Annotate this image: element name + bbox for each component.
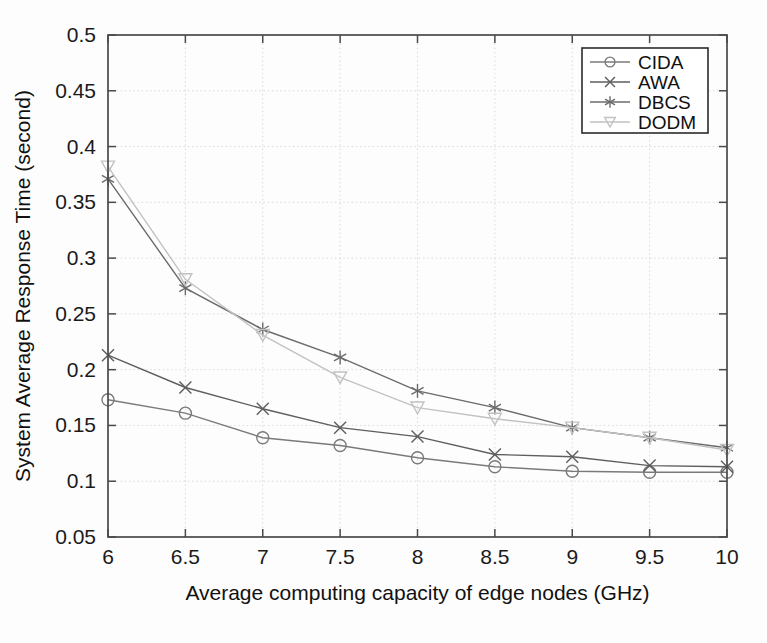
x-tick-label: 6.5 (171, 545, 200, 568)
y-tick-label: 0.35 (55, 190, 96, 213)
chart-legend[interactable]: CIDAAWADBCSDODM (582, 48, 708, 133)
y-tick-label: 0.15 (55, 413, 96, 436)
y-axis-title: System Average Response Time (second) (11, 90, 34, 482)
y-tick-label: 0.05 (55, 525, 96, 548)
y-tick-label: 0.45 (55, 79, 96, 102)
x-tick-label: 7.5 (326, 545, 355, 568)
y-tick-label: 0.2 (67, 358, 96, 381)
x-tick-label: 9 (566, 545, 578, 568)
x-tick-label: 10 (715, 545, 738, 568)
x-tick-label: 9.5 (635, 545, 664, 568)
data-point-marker-asterisk (334, 350, 346, 364)
y-tick-label: 0.1 (67, 469, 96, 492)
data-point-marker-x (179, 382, 191, 394)
data-point-marker-x (257, 403, 269, 415)
x-tick-label: 8 (412, 545, 424, 568)
y-tick-label: 0.5 (67, 23, 96, 46)
data-point-marker-asterisk (489, 401, 501, 415)
x-tick-label: 8.5 (480, 545, 509, 568)
legend-label: DBCS (638, 92, 691, 113)
y-tick-label: 0.4 (67, 135, 97, 158)
line-chart: 66.577.588.599.5100.050.10.150.20.250.30… (0, 0, 767, 643)
data-point-marker-asterisk (411, 384, 423, 398)
legend-label: DODM (638, 112, 696, 133)
x-axis-title: Average computing capacity of edge nodes… (185, 581, 649, 604)
y-tick-label: 0.3 (67, 246, 96, 269)
legend-label: CIDA (638, 52, 684, 73)
x-tick-label: 7 (257, 545, 269, 568)
y-tick-label: 0.25 (55, 302, 96, 325)
x-tick-label: 6 (102, 545, 114, 568)
legend-label: AWA (638, 72, 680, 93)
chart-figure: 66.577.588.599.5100.050.10.150.20.250.30… (0, 0, 767, 643)
